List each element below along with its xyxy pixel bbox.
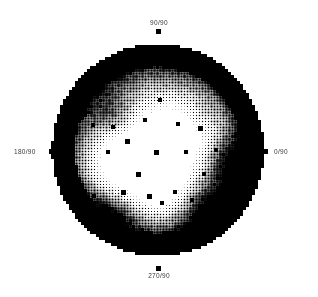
axis-label-bottom: 270/90 (0, 272, 318, 280)
tick-mark-top (156, 29, 161, 34)
pole-figure-halftone-canvas (0, 0, 318, 297)
axis-label-right: 0/90 (274, 148, 288, 156)
tick-mark-right (263, 149, 268, 154)
tick-mark-bottom (156, 266, 161, 271)
axis-label-top: 90/90 (0, 19, 318, 27)
tick-mark-left (49, 149, 54, 154)
axis-label-left: 180/90 (14, 148, 36, 156)
pole-figure-plot: 90/90 0/90 270/90 180/90 (0, 0, 318, 297)
